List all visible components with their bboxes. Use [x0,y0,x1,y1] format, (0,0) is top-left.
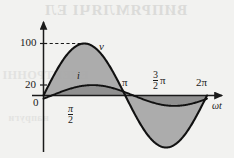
waveform-figure: ВИПРЯМЛЯЧІ ЕЛ ЕЛЕКТРОННІ напруги 100 20 … [0,0,234,158]
current-curve-label: i [77,71,80,81]
y-tick-label-20: 20 [25,79,36,90]
fraction-pi-over-2: π 2 [67,104,74,125]
x-tick-label-pi-over-2: π 2 [67,104,74,125]
y-tick-label-100: 100 [20,37,37,48]
voltage-curve-label: v [99,41,104,52]
x-tick-label-pi: π [122,77,128,88]
x-tick-label-two-pi: 2π [196,77,207,88]
fraction-three-over-two: 3 2 [152,70,159,91]
pi-symbol: π [160,75,166,86]
origin-label: 0 [33,97,39,108]
x-axis-label: ωt [212,101,222,111]
x-tick-label-three-halves-pi: 3 2 π [152,70,166,91]
